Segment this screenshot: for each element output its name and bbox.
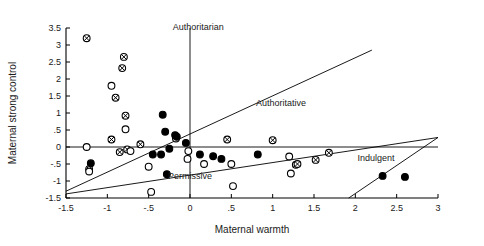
indulgent-label: Indulgent [357,153,395,163]
y-tick-label: 1.5 [48,91,61,101]
y-tick-label: 2 [56,74,61,84]
y-tick-label: 0 [56,142,61,152]
data-point-open [127,148,134,155]
data-point-crossed [269,137,276,144]
data-point-crossed [120,54,127,61]
data-point-crossed [294,161,301,168]
data-point-filled [159,111,166,118]
data-point-open [145,163,152,170]
permissive-label: Permissive [168,171,212,181]
y-tick-label: .5 [53,125,61,135]
x-tick-label: 2 [353,203,358,213]
data-point-crossed [116,149,123,156]
data-point-open [185,148,192,155]
x-tick-label: 0 [187,203,192,213]
data-point-crossed [224,136,231,143]
data-point-crossed [112,94,119,101]
data-point-open [201,161,208,168]
data-point-filled [173,133,180,140]
y-tick-label: 1 [56,108,61,118]
x-tick-label: 2.5 [390,203,403,213]
data-point-open [184,156,191,163]
data-point-open [122,126,129,133]
data-point-open [86,168,93,175]
data-point-crossed [312,157,319,164]
data-point-crossed [119,65,126,72]
data-point-filled [149,151,156,158]
data-point-filled [182,140,189,147]
data-point-open [230,183,237,190]
data-point-filled [197,151,204,158]
x-tick-label: 1.5 [308,203,321,213]
data-point-crossed [108,136,115,143]
chart-canvas: -1.5-1-.50.511.522.53-1.5-1-.50.511.522.… [0,0,484,246]
x-tick-label: -1 [103,203,111,213]
data-point-open [286,153,293,160]
y-tick-label: 3.5 [48,23,61,33]
x-tick-label: 1 [270,203,275,213]
authoritative-label: Authoritative [256,98,306,108]
y-tick-label: -1.5 [45,193,61,203]
x-tick-label: -1.5 [58,203,74,213]
series-filled [87,111,408,180]
y-tick-label: 2.5 [48,57,61,67]
data-point-filled [158,151,165,158]
y-axis-title: Maternal strong control [7,62,18,164]
data-point-filled [166,145,173,152]
x-tick-label: -.5 [143,203,154,213]
data-point-filled [87,160,94,167]
scatter-plot-figure: -1.5-1-.50.511.522.53-1.5-1-.50.511.522.… [0,0,484,246]
data-point-open [287,170,294,177]
data-point-open [83,144,90,151]
data-point-crossed [137,141,144,148]
data-point-filled [254,151,261,158]
y-tick-label: -.5 [50,159,61,169]
authoritarian-label: Authoritarian [173,22,224,32]
data-point-open [228,161,235,168]
x-tick-label: 3 [435,203,440,213]
data-point-crossed [122,112,129,119]
data-point-crossed [325,149,332,156]
y-tick-label: -1 [53,176,61,186]
data-point-filled [218,156,225,163]
data-point-filled [210,153,217,160]
data-point-crossed [83,35,90,42]
data-point-filled [162,128,169,135]
authoritative-upper-diagonal [66,50,372,191]
data-point-filled [379,173,386,180]
data-point-open [108,82,115,89]
data-point-open [148,188,155,195]
data-point-filled [402,174,409,181]
x-tick-label: .5 [228,203,236,213]
y-tick-label: 3 [56,40,61,50]
x-axis-title: Maternal warmth [215,224,289,235]
